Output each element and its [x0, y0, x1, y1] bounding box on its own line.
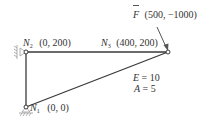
node-symbol: N — [23, 37, 30, 48]
property-a: A = 5 — [134, 84, 156, 94]
force-symbol: F — [133, 9, 139, 20]
property-e-value: = 10 — [142, 72, 160, 83]
node-index: 3 — [108, 43, 111, 49]
property-e-symbol: E — [133, 72, 139, 83]
property-a-value: = 5 — [143, 83, 156, 94]
node-coords: (0, 0) — [47, 102, 69, 113]
node-coords: (0, 200) — [39, 37, 71, 48]
force-arrow-icon — [157, 27, 169, 51]
node-n2 — [24, 50, 28, 54]
force-label: F (500, −1000) — [133, 10, 197, 20]
truss-diagram: F (500, −1000) N2 (0, 200) N3 (400, 200)… — [0, 0, 214, 125]
node-n3 — [166, 50, 170, 54]
node-label-n1: N1 (0, 0) — [30, 103, 69, 114]
node-n1 — [24, 105, 28, 109]
force-vector-mark — [133, 5, 139, 6]
force-value: (500, −1000) — [145, 9, 197, 20]
property-a-symbol: A — [134, 83, 140, 94]
node-symbol: N — [101, 37, 108, 48]
node-index: 2 — [30, 43, 33, 49]
node-label-n3: N3 (400, 200) — [101, 38, 158, 49]
node-label-n2: N2 (0, 200) — [23, 38, 71, 49]
node-index: 1 — [37, 108, 40, 114]
node-symbol: N — [30, 102, 37, 113]
property-e: E = 10 — [133, 73, 160, 83]
node-coords: (400, 200) — [116, 37, 158, 48]
